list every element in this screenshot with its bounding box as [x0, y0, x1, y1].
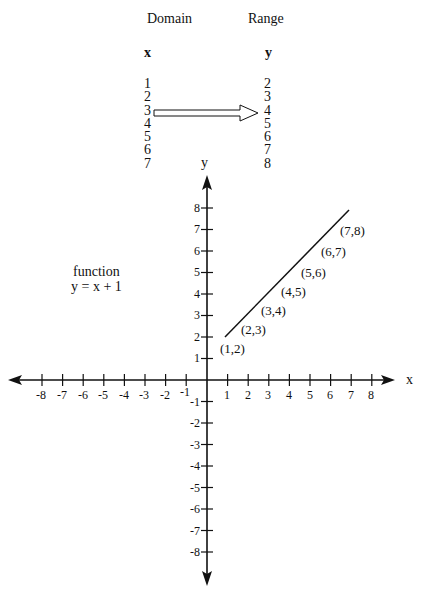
- y-tick-label: 8: [194, 202, 200, 214]
- y-axis-label: y: [201, 156, 208, 170]
- y-tick-label: -2: [190, 417, 200, 429]
- point-label: (6,7): [321, 245, 346, 258]
- y-tick-label: -8: [190, 546, 200, 558]
- x-tick-label: -5: [98, 389, 108, 401]
- y-tick-label: 7: [194, 223, 200, 235]
- x-tick-label: 7: [348, 389, 354, 401]
- x-tick-label: -2: [160, 389, 170, 401]
- point-label: (3,4): [261, 304, 286, 317]
- y-tick-label: -6: [190, 503, 200, 515]
- y-tick-label: -1: [190, 396, 200, 408]
- y-tick-label: -4: [190, 460, 200, 472]
- x-tick-label: 1: [224, 389, 230, 401]
- x-tick-labels: -8 -7 -6 -5 -4 -3 -2 -1 1 2 3 4 5 6 7 8: [0, 389, 425, 405]
- point-label: (5,6): [301, 266, 326, 279]
- x-tick-label: -6: [78, 389, 88, 401]
- graph-canvas: [0, 0, 425, 595]
- y-tick-label: -3: [190, 439, 200, 451]
- y-tick-label: 2: [194, 331, 200, 343]
- mapping-arrow-icon: [154, 105, 258, 121]
- x-tick-label: -3: [139, 389, 149, 401]
- y-tick-label: 6: [194, 245, 200, 257]
- x-tick-label: -7: [57, 389, 67, 401]
- x-tick-label: -4: [119, 389, 129, 401]
- x-tick-label: 4: [286, 389, 292, 401]
- y-tick-label: 5: [194, 266, 200, 278]
- y-tick-labels: 8 7 6 5 4 3 2 1 -1 -2 -3 -4 -5 -6 -7 -8: [178, 0, 200, 595]
- x-tick-label: -8: [36, 389, 46, 401]
- x-tick-label: 3: [265, 389, 271, 401]
- point-label: (2,3): [241, 323, 266, 336]
- x-axis-label: x: [406, 373, 413, 387]
- point-label: (4,5): [281, 285, 306, 298]
- y-tick-label: -7: [190, 525, 200, 537]
- y-tick-label: 1: [194, 352, 200, 364]
- function-line: [225, 210, 349, 337]
- y-tick-label: -5: [190, 482, 200, 494]
- x-tick-label: 5: [307, 389, 313, 401]
- point-label: (1,2): [220, 342, 245, 355]
- x-tick-label: 6: [327, 389, 333, 401]
- x-tick-label: 2: [245, 389, 251, 401]
- y-tick-label: 4: [194, 288, 200, 300]
- point-label: (7,8): [340, 224, 365, 237]
- y-tick-label: 3: [194, 309, 200, 321]
- x-tick-label: 8: [368, 389, 374, 401]
